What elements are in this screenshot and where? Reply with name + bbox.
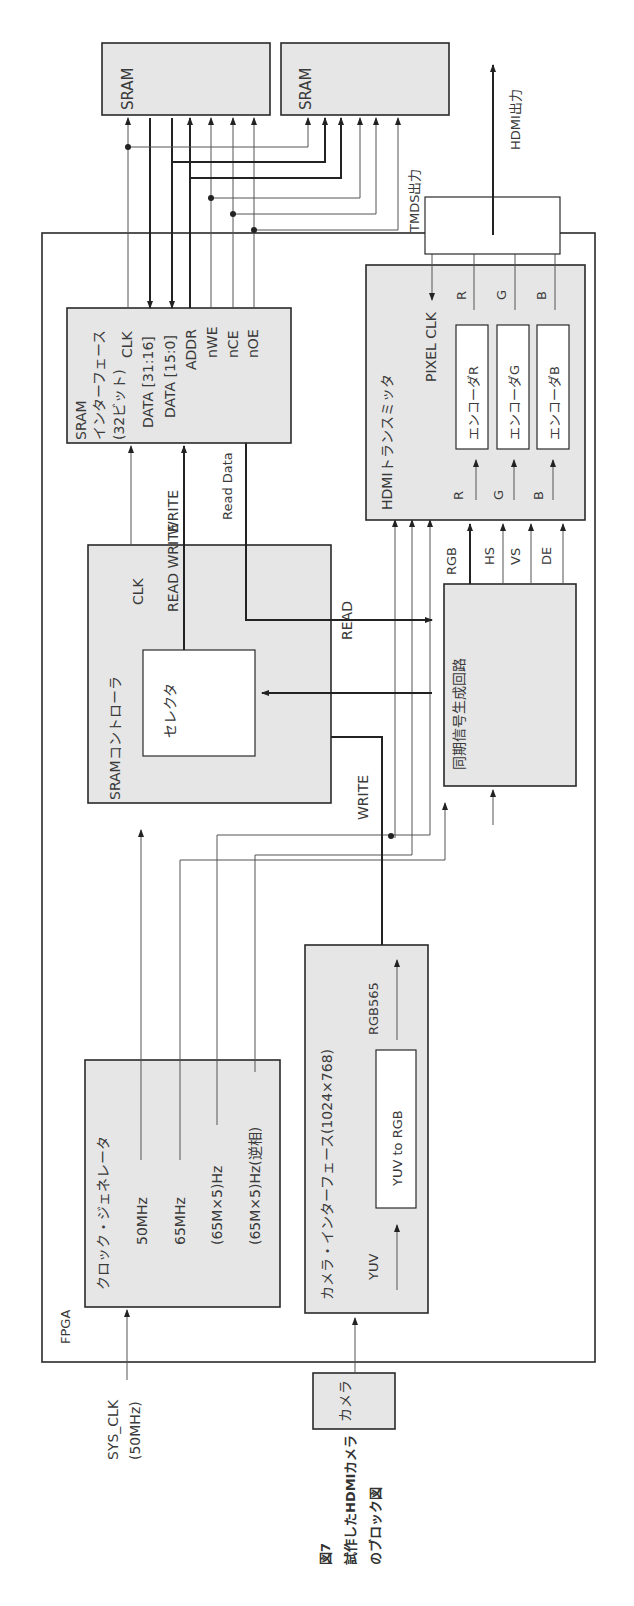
clock-output-50mhz: 50MHz [134, 1197, 150, 1245]
sram-chip-1-label: SRAM [119, 67, 137, 110]
read-data-label: Read Data [220, 452, 235, 520]
sram-interface-title-3: (32ビット) [111, 369, 127, 440]
tx-input-b: B [531, 491, 546, 500]
yuv-label: YUV [366, 1254, 381, 1281]
pin-noe: nOE [245, 329, 261, 358]
tmds-out-label: TMDS出力 [407, 169, 422, 233]
pixel-clk-label: PIXEL CLK [423, 311, 439, 382]
hdmi-out-label: HDMI出力 [508, 89, 523, 150]
pin-nce: nCE [225, 331, 241, 359]
sync-output-rgb: RGB [444, 547, 459, 575]
tx-input-r: R [451, 491, 466, 500]
sync-output-hs: HS [482, 547, 497, 565]
clock-output-65mhz: 65MHz [172, 1197, 188, 1245]
sys-clk-label: SYS_CLK [105, 1399, 121, 1460]
encoder-b-label: エンコーダB [547, 366, 562, 440]
sram-interface-title-2: インターフェース [91, 330, 107, 440]
rgb565-label: RGB565 [366, 982, 381, 1035]
sram-controller-clk: CLK [130, 577, 146, 605]
sys-clk-freq: (50MHz) [127, 1401, 143, 1460]
encoder-g-label: エンコーダG [507, 365, 522, 440]
sync-output-vs: VS [508, 548, 523, 565]
yuv-to-rgb-label: YUV to RGB [390, 1110, 405, 1187]
junction-dot [388, 833, 394, 839]
sram-chip-2-label: SRAM [297, 67, 315, 110]
sram-interface-title-1: SRAM [73, 400, 89, 440]
figure-number: 図7 [318, 1543, 333, 1565]
encoder-r-label: エンコーダR [466, 366, 481, 440]
sram-bus [125, 118, 398, 308]
tx-output-g: G [494, 290, 509, 300]
pin-addr: ADDR [183, 329, 199, 370]
clock-generator-title: クロック・ジェネレータ [95, 1136, 111, 1290]
pin-nwe: nWE [204, 326, 220, 358]
sync-generator-title: 同期信号生成回路 [451, 658, 467, 770]
sram-controller-title: SRAMコントローラ [107, 676, 123, 800]
tx-output-b: B [534, 291, 549, 300]
tx-input-g: G [491, 490, 506, 500]
fpga-label: FPGA [58, 1310, 73, 1344]
pin-data-high: DATA [31:16] [140, 336, 156, 428]
sram-controller-read-write: READ WRITE [165, 524, 181, 612]
write-top-label: WRITE [165, 490, 181, 535]
clock-output-325mhz: (65M×5)Hz [209, 1166, 225, 1245]
selector-label: セレクタ [162, 683, 178, 738]
selector-block [143, 650, 255, 756]
write-label: WRITE [355, 775, 371, 820]
pin-data-low: DATA [15:0] [162, 335, 178, 418]
figure-caption-line2: のブロック図 [368, 1487, 383, 1565]
clock-output-325mhz-inv: (65M×5)Hz(逆相) [247, 1127, 263, 1245]
camera-block [313, 1373, 395, 1429]
camera-label: カメラ [337, 1380, 353, 1422]
figure-caption-line1: 試作したHDMIカメラ [343, 1435, 358, 1565]
sync-output-de: DE [539, 547, 554, 565]
camera-interface-title: カメラ・インターフェース(1024×768) [319, 1049, 335, 1300]
tx-output-r: R [454, 291, 469, 300]
hdmi-transmitter-title: HDMIトランスミッタ [379, 374, 395, 510]
pin-clk: CLK [119, 330, 135, 358]
